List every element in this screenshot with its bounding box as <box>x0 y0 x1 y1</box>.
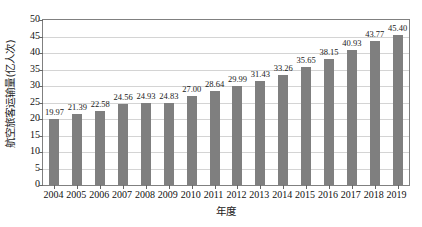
x-axis-tick-label: 2005 <box>66 189 86 201</box>
x-axis-tick-label: 2011 <box>204 189 224 201</box>
bar-value-label: 35.65 <box>297 56 316 65</box>
bar[interactable] <box>393 35 403 185</box>
bar-value-label: 29.99 <box>228 75 247 84</box>
bar[interactable] <box>164 103 174 185</box>
y-axis-tickmark <box>39 119 43 120</box>
bar-group[interactable]: 19.97 <box>43 20 66 185</box>
bar-group[interactable]: 27.00 <box>180 20 203 185</box>
y-axis-tickmark <box>39 70 43 71</box>
bars-layer: 19.9721.3922.5824.5624.9324.8327.0028.64… <box>43 20 409 185</box>
y-axis-tickmark <box>39 136 43 137</box>
bar-group[interactable]: 21.39 <box>66 20 89 185</box>
plot-area: 19.9721.3922.5824.5624.9324.8327.0028.64… <box>42 19 410 186</box>
bar-chart: 航空旅客运输量(亿人次) 05101520253035404550 19.972… <box>0 0 422 227</box>
x-axis-tick-label: 2008 <box>135 189 155 201</box>
bar-group[interactable]: 22.58 <box>89 20 112 185</box>
y-axis-tick-label: 50 <box>16 14 40 24</box>
bar[interactable] <box>301 67 311 185</box>
x-axis-tick-label: 2004 <box>43 189 63 201</box>
y-axis-tick-label: 45 <box>16 31 40 41</box>
y-axis-tick-label: 25 <box>16 97 40 107</box>
y-axis-tick-label: 0 <box>16 179 40 189</box>
y-axis-tickmark <box>39 86 43 87</box>
bar-group[interactable]: 28.64 <box>203 20 226 185</box>
bar-value-label: 43.77 <box>365 30 384 39</box>
bar-value-label: 24.93 <box>136 92 155 101</box>
bar-group[interactable]: 38.15 <box>318 20 341 185</box>
bar-group[interactable]: 43.77 <box>363 20 386 185</box>
bar-group[interactable]: 29.99 <box>226 20 249 185</box>
bar[interactable] <box>49 119 59 185</box>
bar[interactable] <box>187 96 197 185</box>
y-axis-tick-label: 5 <box>16 163 40 173</box>
bar-group[interactable]: 45.40 <box>386 20 409 185</box>
y-axis-tickmark <box>39 169 43 170</box>
y-axis-tick-label: 30 <box>16 80 40 90</box>
bar-value-label: 33.26 <box>274 64 293 73</box>
x-axis-tick-label: 2012 <box>226 189 246 201</box>
bar-value-label: 24.56 <box>114 93 133 102</box>
bar-value-label: 21.39 <box>68 103 87 112</box>
x-axis-tick-label: 2018 <box>364 189 384 201</box>
x-axis-tick-label: 2016 <box>318 189 338 201</box>
y-axis-tick-labels: 05101520253035404550 <box>16 14 40 186</box>
y-axis-tickmark <box>39 37 43 38</box>
bar-group[interactable]: 31.43 <box>249 20 272 185</box>
bar-value-label: 28.64 <box>205 80 224 89</box>
x-axis-tick-label: 2009 <box>158 189 178 201</box>
x-axis-tick-labels: 2004200520062007200820092010201120122013… <box>42 189 410 203</box>
y-axis-tick-label: 40 <box>16 47 40 57</box>
bar[interactable] <box>210 91 220 186</box>
y-axis-tick-label: 20 <box>16 113 40 123</box>
x-axis-tick-label: 2015 <box>295 189 315 201</box>
bar[interactable] <box>118 104 128 185</box>
bar-group[interactable]: 40.93 <box>340 20 363 185</box>
bar[interactable] <box>370 41 380 185</box>
x-axis-tick-label: 2007 <box>112 189 132 201</box>
bar-value-label: 38.15 <box>319 48 338 57</box>
bar[interactable] <box>347 50 357 185</box>
x-axis-tick-label: 2006 <box>89 189 109 201</box>
bar-value-label: 24.83 <box>159 92 178 101</box>
bar-value-label: 45.40 <box>388 24 407 33</box>
y-axis-tick-label: 15 <box>16 130 40 140</box>
bar-value-label: 22.58 <box>91 100 110 109</box>
bar[interactable] <box>278 75 288 185</box>
x-axis-tick-label: 2010 <box>181 189 201 201</box>
y-axis-title-text: 航空旅客运输量(亿人次) <box>2 39 17 147</box>
y-axis-tickmark <box>39 20 43 21</box>
bar-group[interactable]: 33.26 <box>272 20 295 185</box>
bar[interactable] <box>95 111 105 186</box>
bar-group[interactable]: 35.65 <box>295 20 318 185</box>
bar-group[interactable]: 24.83 <box>157 20 180 185</box>
y-axis-tickmark <box>39 53 43 54</box>
y-axis-tick-label: 10 <box>16 146 40 156</box>
bar[interactable] <box>232 86 242 185</box>
bar-value-label: 40.93 <box>342 39 361 48</box>
x-axis-tick-label: 2019 <box>387 189 407 201</box>
bar[interactable] <box>72 114 82 185</box>
y-axis-tick-label: 35 <box>16 64 40 74</box>
bar-group[interactable]: 24.56 <box>112 20 135 185</box>
bar-value-label: 27.00 <box>182 85 201 94</box>
y-axis-tickmark <box>39 152 43 153</box>
bar[interactable] <box>255 81 265 185</box>
x-axis-tick-label: 2017 <box>341 189 361 201</box>
y-axis-tickmark <box>39 185 43 186</box>
bar-value-label: 19.97 <box>45 108 64 117</box>
bar-group[interactable]: 24.93 <box>135 20 158 185</box>
bar[interactable] <box>324 59 334 185</box>
x-axis-title: 年度 <box>42 203 410 218</box>
y-axis-tickmark <box>39 103 43 104</box>
x-axis-tick-label: 2013 <box>249 189 269 201</box>
x-axis-tick-label: 2014 <box>272 189 292 201</box>
bar-value-label: 31.43 <box>251 70 270 79</box>
bar[interactable] <box>141 103 151 185</box>
